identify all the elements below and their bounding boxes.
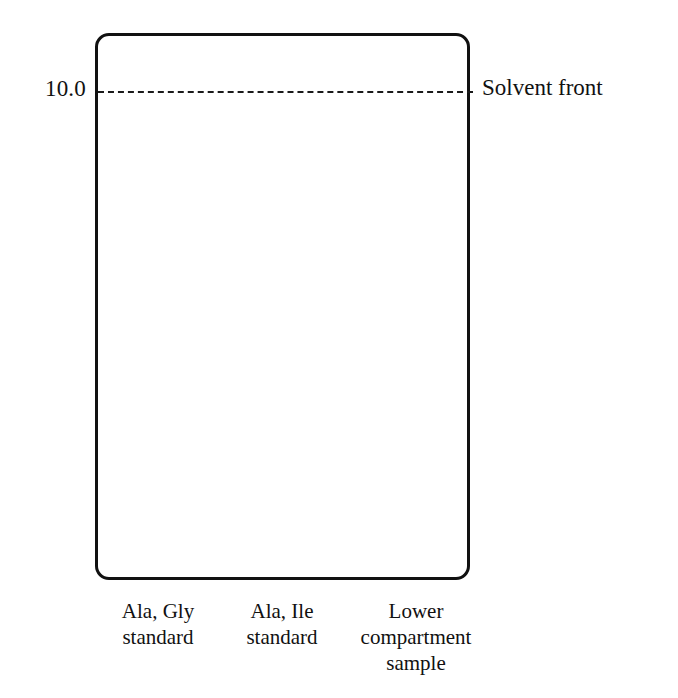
lane-caption-3: Lower compartment sample [336, 598, 496, 676]
solvent-front-label: Solvent front [482, 76, 603, 99]
y-axis: 10.07.55.02.5 [0, 0, 86, 698]
chromatography-figure: 10.07.55.02.5 XXX Solvent front Ala, Gly… [0, 0, 678, 698]
solvent-front-line [98, 91, 473, 93]
chromatography-plate: XXX [95, 33, 470, 580]
y-tick-label: 10.0 [12, 77, 86, 100]
